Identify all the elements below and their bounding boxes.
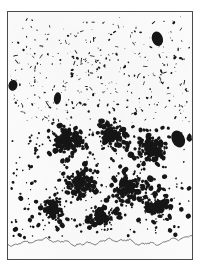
particle [59, 39, 60, 41]
particle [36, 62, 38, 65]
particle [87, 110, 90, 113]
particle [70, 116, 73, 119]
particle [173, 225, 176, 229]
particle [58, 197, 62, 200]
particle [129, 229, 131, 231]
particle [115, 88, 117, 90]
particle [126, 99, 129, 101]
particle [188, 121, 190, 122]
particle-streak [63, 81, 64, 83]
particle [77, 90, 78, 92]
particle [127, 83, 130, 86]
particle [82, 104, 84, 106]
particle [74, 107, 75, 108]
particle [138, 147, 141, 151]
particle [163, 20, 165, 22]
particle [149, 37, 150, 38]
particle [121, 158, 123, 160]
particle [65, 200, 68, 203]
particle [166, 56, 168, 58]
particle [162, 52, 163, 53]
particle [164, 166, 167, 169]
particle-streak [34, 39, 36, 40]
particle [95, 59, 96, 60]
particle [103, 228, 106, 231]
particle [140, 107, 141, 108]
particle [167, 135, 172, 139]
particle [89, 118, 91, 120]
particle [67, 53, 68, 54]
particle-streak [138, 53, 140, 55]
particle [42, 219, 44, 221]
particle [180, 112, 182, 113]
particle [30, 85, 32, 87]
particle [106, 103, 109, 107]
particle-streak [30, 26, 32, 28]
particle [154, 75, 156, 77]
particle-streak [183, 80, 185, 85]
mid-left-blob [53, 92, 62, 105]
particle [116, 83, 117, 84]
particle [28, 63, 29, 64]
particle [107, 88, 108, 89]
particle [43, 86, 44, 87]
particle [131, 32, 133, 34]
particle [22, 48, 25, 51]
particle-streak [90, 41, 91, 43]
particle [31, 225, 35, 228]
particle [124, 48, 125, 49]
left-edge-blob [8, 79, 18, 92]
particle [73, 218, 77, 222]
particle [45, 77, 47, 79]
particle [111, 81, 112, 82]
particle [188, 47, 190, 49]
particle-streak [25, 18, 27, 21]
particle [65, 217, 71, 222]
particle [100, 183, 104, 187]
particle [153, 178, 156, 181]
particle [172, 232, 178, 238]
particle [87, 62, 88, 63]
particle [104, 91, 105, 92]
particle [180, 48, 181, 49]
particle [97, 76, 99, 78]
particle [45, 188, 47, 190]
particle [77, 32, 79, 34]
particle [178, 202, 181, 205]
particle [136, 163, 142, 169]
particle-streak [92, 22, 95, 23]
figure-caption [7, 262, 193, 273]
particle [99, 49, 101, 51]
particle [90, 207, 93, 209]
particle-streak [159, 77, 162, 80]
particle [84, 136, 87, 139]
particle [71, 101, 73, 105]
particle [175, 106, 176, 107]
particle [27, 198, 29, 200]
particle [15, 69, 17, 71]
upper-right-blob [150, 30, 165, 48]
particle [128, 74, 130, 77]
particle [110, 224, 112, 226]
particle [167, 63, 168, 66]
particle [80, 168, 83, 171]
particle [109, 166, 111, 168]
particle [10, 221, 13, 224]
particle [38, 212, 42, 216]
particle [88, 74, 90, 76]
particle [169, 198, 173, 202]
particle [78, 101, 82, 105]
particle [17, 41, 20, 44]
particle [112, 120, 116, 124]
particle [31, 118, 32, 119]
particle [120, 68, 121, 69]
particle [87, 99, 89, 100]
particle [63, 164, 66, 167]
particle-streak [65, 82, 68, 84]
particle [11, 140, 14, 143]
particle [27, 54, 28, 55]
particle [134, 74, 136, 76]
particle [120, 67, 121, 68]
particle [147, 60, 148, 61]
particle [80, 230, 83, 233]
